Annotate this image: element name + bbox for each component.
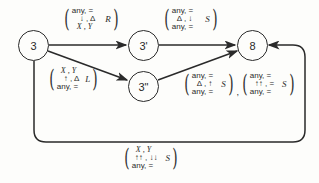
edge-label-3prime-to-8: ( any, = Δ , ↓ any, = S ): [162, 7, 219, 31]
edge-label-3-to-3dprime: ( X , Y ↑ , Δ any, = L ): [47, 67, 100, 91]
direction-label: L: [85, 67, 90, 91]
state-node-3: 3: [18, 30, 49, 61]
node-label: 3': [139, 40, 147, 52]
edge-label-3dprime-to-8: ( any, = Δ , ↑ any, = S ) , ( any, = ↑↑ …: [182, 72, 296, 96]
node-label: 8: [249, 40, 255, 52]
left-paren: (: [64, 7, 69, 31]
left-paren: (: [164, 7, 169, 31]
label-row: any, =: [192, 88, 213, 96]
left-paren: (: [49, 67, 54, 91]
direction-label: S: [221, 72, 226, 96]
label-separator: ,: [235, 72, 240, 96]
left-paren: (: [242, 72, 247, 96]
label-row: any, =: [132, 162, 158, 170]
left-paren: (: [184, 72, 189, 96]
right-paren: ): [172, 146, 177, 170]
label-row: any, =: [250, 88, 274, 96]
node-label: 3": [138, 81, 148, 93]
direction-label: S: [205, 7, 210, 31]
direction-label: S: [282, 72, 287, 96]
state-node-8: 8: [237, 30, 268, 61]
right-paren: ): [228, 72, 233, 96]
node-label: 3: [30, 40, 36, 52]
edge-label-3-loop-to-8: ( X , Y ↑↑ , ↓↓ any, = S ): [122, 146, 180, 170]
label-row: X , Y: [72, 23, 96, 31]
direction-label: R: [105, 7, 111, 31]
label-row: any, =: [172, 23, 193, 31]
right-paren: ): [289, 72, 294, 96]
label-row: any, =: [57, 83, 80, 91]
right-paren: ): [113, 7, 118, 31]
direction-label: S: [165, 146, 170, 170]
state-node-3-prime: 3': [128, 30, 159, 61]
right-paren: ): [93, 67, 98, 91]
right-paren: ): [212, 7, 217, 31]
state-node-3-double-prime: 3": [128, 71, 159, 102]
edge-label-3-to-3prime: ( any, = ↓ , Δ X , Y R ): [62, 7, 121, 31]
left-paren: (: [124, 146, 129, 170]
